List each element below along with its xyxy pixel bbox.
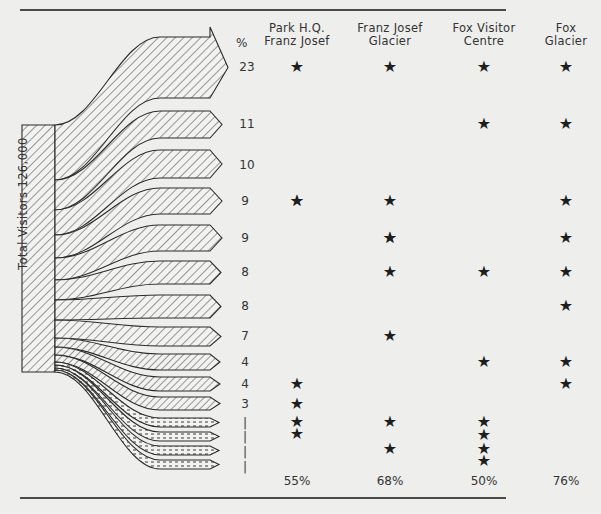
star-icon: ★ bbox=[559, 298, 573, 314]
column-header-line2: Glacier bbox=[521, 35, 601, 48]
star-icon: ★ bbox=[290, 396, 304, 412]
star-icon: ★ bbox=[383, 328, 397, 344]
column-header-4: FoxGlacier bbox=[521, 22, 601, 48]
column-header-line2: Franz Josef bbox=[252, 35, 342, 48]
star-icon: ★ bbox=[559, 59, 573, 75]
row-percent: 4 bbox=[241, 377, 249, 391]
star-icon: ★ bbox=[559, 116, 573, 132]
star-icon: ★ bbox=[477, 264, 491, 280]
row-percent: | bbox=[243, 460, 247, 474]
star-icon: ★ bbox=[559, 354, 573, 370]
star-icon: ★ bbox=[559, 193, 573, 209]
column-header-1: Park H.Q.Franz Josef bbox=[252, 22, 342, 48]
row-percent: | bbox=[243, 430, 247, 444]
column-total: 68% bbox=[377, 474, 404, 488]
star-icon: ★ bbox=[559, 230, 573, 246]
star-icon: ★ bbox=[559, 264, 573, 280]
star-icon: ★ bbox=[383, 193, 397, 209]
row-percent: 23 bbox=[239, 60, 254, 74]
column-header-2: Franz JosefGlacier bbox=[345, 22, 435, 48]
row-percent: 10 bbox=[239, 158, 254, 172]
star-icon: ★ bbox=[383, 230, 397, 246]
row-percent: 3 bbox=[241, 397, 249, 411]
star-icon: ★ bbox=[383, 59, 397, 75]
star-icon: ★ bbox=[290, 426, 304, 442]
percent-header: % bbox=[236, 36, 247, 50]
column-total: 50% bbox=[471, 474, 498, 488]
row-percent: 8 bbox=[241, 299, 249, 313]
star-icon: ★ bbox=[383, 414, 397, 430]
star-icon: ★ bbox=[383, 264, 397, 280]
star-icon: ★ bbox=[477, 59, 491, 75]
star-icon: ★ bbox=[477, 453, 491, 469]
column-total: 55% bbox=[284, 474, 311, 488]
star-icon: ★ bbox=[290, 193, 304, 209]
star-icon: ★ bbox=[290, 59, 304, 75]
star-icon: ★ bbox=[290, 376, 304, 392]
row-percent: 9 bbox=[241, 194, 249, 208]
row-percent: | bbox=[243, 445, 247, 459]
column-header-line2: Centre bbox=[439, 35, 529, 48]
column-total: 76% bbox=[553, 474, 580, 488]
column-header-3: Fox VisitorCentre bbox=[439, 22, 529, 48]
row-percent: 7 bbox=[241, 329, 249, 343]
star-icon: ★ bbox=[383, 441, 397, 457]
row-percent: | bbox=[243, 416, 247, 430]
star-icon: ★ bbox=[559, 376, 573, 392]
total-visitors-label: Total Visitors 126,000 bbox=[16, 160, 30, 270]
row-percent: 8 bbox=[241, 265, 249, 279]
row-percent: 11 bbox=[239, 117, 254, 131]
column-header-line2: Glacier bbox=[345, 35, 435, 48]
row-percent: 9 bbox=[241, 231, 249, 245]
star-icon: ★ bbox=[477, 354, 491, 370]
row-percent: 4 bbox=[241, 355, 249, 369]
star-icon: ★ bbox=[477, 116, 491, 132]
